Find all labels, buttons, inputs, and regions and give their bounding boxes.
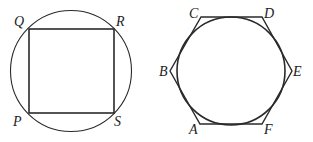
label-s: S [114, 114, 121, 129]
figure-square-in-circle: Q R P S [11, 11, 132, 132]
label-e: E [292, 64, 302, 79]
label-p: P [12, 114, 22, 129]
label-r: R [115, 14, 125, 29]
label-f: F [263, 122, 273, 137]
geometry-diagram: Q R P S C D B E A F [0, 0, 313, 142]
label-c: C [189, 6, 199, 21]
hexagon-abcdef [170, 17, 292, 124]
label-a: A [188, 122, 198, 137]
label-d: D [263, 6, 274, 21]
square-pqrs [29, 29, 114, 113]
inscribed-circle [177, 17, 285, 125]
label-b: B [159, 64, 168, 79]
figure-circle-in-hexagon: C D B E A F [159, 6, 302, 137]
label-q: Q [14, 14, 24, 29]
